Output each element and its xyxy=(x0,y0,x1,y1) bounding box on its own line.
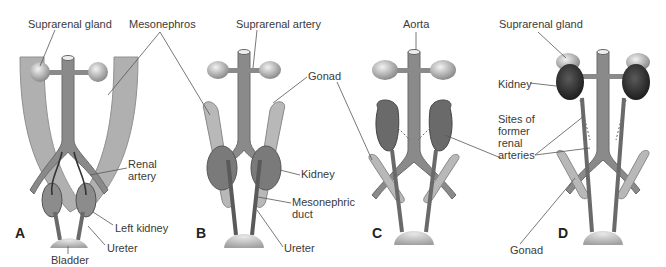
label-suprarenal-gland-a: Suprarenal gland xyxy=(28,18,112,30)
panel-letter-d: D xyxy=(558,225,568,241)
panel-d-drawing xyxy=(556,50,650,246)
panel-c-drawing xyxy=(369,50,459,246)
panel-letter-a: A xyxy=(15,225,25,241)
label-left-kidney: Left kidney xyxy=(115,222,168,234)
label-sites-former-renal-arteries: Sites of former renal arteries xyxy=(498,113,542,161)
label-suprarenal-gland-d: Suprarenal gland xyxy=(499,18,583,30)
panel-letter-b: B xyxy=(196,225,206,241)
label-bladder: Bladder xyxy=(51,254,89,266)
label-ureter-b: Ureter xyxy=(284,242,315,254)
label-kidney-b: Kidney xyxy=(301,168,335,180)
label-renal-artery: Renal artery xyxy=(128,158,164,182)
label-suprarenal-artery: Suprarenal artery xyxy=(236,18,321,30)
label-ureter-a: Ureter xyxy=(107,242,138,254)
suprarenal-gland-right xyxy=(88,62,108,82)
label-kidney-d: Kidney xyxy=(498,78,532,90)
panel-b-drawing xyxy=(203,50,284,249)
panel-letter-c: C xyxy=(372,225,382,241)
label-mesonephros: Mesonephros xyxy=(129,18,196,30)
bladder xyxy=(50,238,88,248)
panel-a-drawing xyxy=(20,56,138,249)
label-gonad-d: Gonad xyxy=(510,244,543,256)
label-aorta: Aorta xyxy=(403,18,429,30)
label-mesonephric-duct: Mesonephric duct xyxy=(292,196,342,220)
label-gonad-b: Gonad xyxy=(308,70,341,82)
